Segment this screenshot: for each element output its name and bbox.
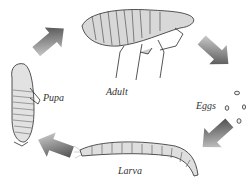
eggs-label: Eggs	[196, 100, 216, 111]
arrow-pupa-to-adult-icon	[28, 18, 72, 61]
pupa-label: Pupa	[43, 92, 64, 103]
adult-flea-illustration	[82, 10, 194, 80]
pupa-illustration	[12, 64, 40, 146]
larva-label: Larva	[118, 165, 142, 176]
arrow-eggs-to-larva-icon	[194, 113, 238, 156]
adult-label: Adult	[106, 86, 128, 97]
arrow-larva-to-pupa-icon	[34, 128, 77, 165]
arrow-adult-to-eggs-icon	[193, 30, 237, 73]
eggs-illustration	[225, 91, 245, 123]
